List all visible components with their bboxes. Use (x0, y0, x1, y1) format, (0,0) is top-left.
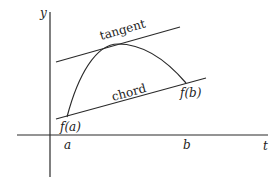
fa-label: f(a) (59, 120, 81, 134)
t-axis-label: t (263, 139, 268, 153)
a-tick-label: a (64, 138, 71, 152)
chord-label: chord (110, 81, 148, 104)
function-curve (67, 44, 186, 117)
fb-label: f(b) (179, 86, 202, 100)
mean-value-theorem-diagram: y t a b f(a) f(b) tangent chord (0, 0, 279, 178)
b-tick-label: b (183, 138, 191, 152)
y-axis-label: y (39, 6, 47, 20)
